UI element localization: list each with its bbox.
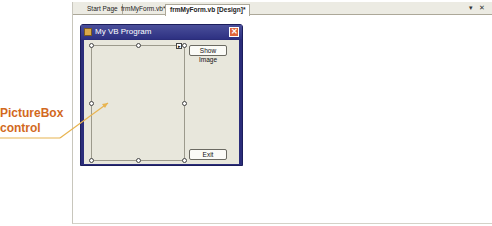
callout-line-1: PictureBox xyxy=(0,106,63,121)
form-app-icon xyxy=(84,28,92,36)
resize-handle-middle-left[interactable] xyxy=(89,101,94,106)
resize-handle-top-left[interactable] xyxy=(89,43,94,48)
resize-handle-bottom-left[interactable] xyxy=(89,158,94,163)
tab-design-view[interactable]: frmMyForm.vb [Design]* xyxy=(165,4,250,16)
resize-handle-bottom-center[interactable] xyxy=(136,158,141,163)
form-title: My VB Program xyxy=(95,26,151,38)
tab-code-view[interactable]: frmMyForm.vb* xyxy=(117,4,170,15)
smart-tag-icon[interactable]: ▸ xyxy=(176,43,182,49)
document-tab-bar: Start Page frmMyForm.vb* frmMyForm.vb [D… xyxy=(73,2,492,15)
form-window: My VB Program ✕ ▸ Show Image Exit xyxy=(80,24,243,166)
picturebox-callout-label: PictureBox control xyxy=(0,106,63,136)
resize-handle-bottom-right[interactable] xyxy=(182,158,187,163)
tab-controls: ▾ ✕ xyxy=(465,4,485,12)
show-image-button[interactable]: Show Image xyxy=(189,45,227,56)
chevron-down-icon[interactable]: ▾ xyxy=(469,4,473,11)
form-close-button[interactable]: ✕ xyxy=(229,27,239,37)
resize-handle-top-right[interactable] xyxy=(182,43,187,48)
callout-line-2: control xyxy=(0,121,63,136)
close-icon[interactable]: ✕ xyxy=(479,4,485,11)
picturebox-control[interactable]: ▸ xyxy=(91,45,185,161)
form-title-bar[interactable]: My VB Program ✕ xyxy=(81,25,242,39)
resize-handle-middle-right[interactable] xyxy=(182,101,187,106)
form-client-area: ▸ Show Image Exit xyxy=(84,40,239,164)
exit-button[interactable]: Exit xyxy=(189,149,227,160)
resize-handle-top-center[interactable] xyxy=(136,43,141,48)
